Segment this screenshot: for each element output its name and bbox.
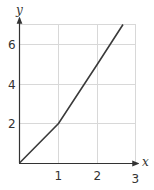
- y-tick-2: 2: [8, 117, 16, 131]
- x-tick-2: 2: [94, 169, 102, 183]
- data-line: [20, 25, 124, 164]
- chart: y x 6 4 2 1 2 3: [0, 0, 154, 190]
- y-tick-6: 6: [8, 38, 16, 52]
- axes: [19, 18, 138, 164]
- y-axis-label: y: [15, 3, 23, 17]
- y-tick-4: 4: [8, 78, 16, 92]
- x-tick-3: 3: [132, 172, 140, 186]
- x-axis-label: x: [142, 155, 149, 169]
- x-tick-1: 1: [55, 169, 63, 183]
